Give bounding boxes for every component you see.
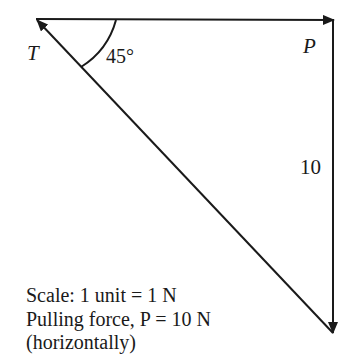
label-angle: 45° (106, 46, 134, 66)
label-t: T (27, 43, 39, 64)
vector-p (36, 19, 334, 20)
label-side-10: 10 (300, 157, 321, 178)
note-direction: (horizontally) (26, 331, 211, 355)
label-p: P (303, 36, 316, 57)
scale-note: Scale: 1 unit = 1 N Pulling force, P = 1… (26, 284, 211, 355)
note-pulling-force: Pulling force, P = 10 N (26, 308, 211, 332)
note-scale: Scale: 1 unit = 1 N (26, 284, 211, 308)
